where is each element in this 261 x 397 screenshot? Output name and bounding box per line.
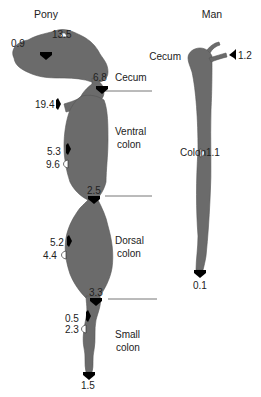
arrow-ventral-out-icon (64, 160, 69, 168)
label-ventral-1: Ventral (115, 126, 146, 137)
label-pony-cecum: Cecum (115, 72, 147, 83)
label-ventral-2: colon (117, 139, 141, 150)
pony-ventral-colon-shape (64, 95, 108, 200)
label-small-2: colon (116, 342, 140, 353)
value-dorsal-out: 4.4 (43, 250, 57, 261)
pony-small-colon-shape (83, 296, 100, 372)
value-cecum-out: 13.5 (52, 29, 72, 40)
label-dorsal-2: colon (117, 248, 141, 259)
value-dorsal-in: 5.2 (50, 237, 64, 248)
label-dorsal-1: Dorsal (115, 235, 144, 246)
label-man-colon: Colon (180, 147, 206, 158)
value-man-colon-out: 1.1 (206, 147, 220, 158)
arrow-fecal-icon (83, 372, 95, 380)
man-colon-shape (188, 48, 212, 270)
value-ventral-in: 5.3 (47, 146, 61, 157)
man-ileum-shape (209, 53, 227, 62)
value-fecal: 1.5 (81, 380, 95, 391)
value-man-fecal: 0.1 (193, 280, 207, 291)
arrow-dorsal-out-icon (62, 251, 67, 259)
value-ventral-exit: 2.5 (87, 185, 101, 196)
man-appendix-shape (207, 42, 220, 53)
value-cecum-exit: 6.8 (93, 72, 107, 83)
value-cecum-in: 0.9 (11, 38, 25, 49)
arrow-small-out-icon (82, 325, 87, 333)
hindgut-comparison-diagram: Pony Man 0.9 13.5 6.8 Cecum 19.4 Ventral… (0, 0, 261, 397)
value-small-out: 2.3 (65, 324, 79, 335)
man-arrow-fecal-icon (194, 270, 206, 278)
value-ventral-out: 9.6 (46, 159, 60, 170)
value-ileum-inflow: 19.4 (35, 99, 55, 110)
label-small-1: Small (115, 329, 140, 340)
value-man-ileum-inflow: 1.2 (238, 50, 252, 61)
arrow-ileum-inflow-icon (56, 98, 61, 110)
man-arrow-ileum-inflow-icon (229, 49, 236, 60)
pony-dorsal-colon-shape (65, 200, 113, 298)
value-dorsal-exit: 3.3 (89, 287, 103, 298)
pony-title: Pony (34, 8, 59, 20)
value-small-in: 0.5 (65, 313, 79, 324)
man-title: Man (202, 8, 223, 20)
label-man-cecum: Cecum (149, 51, 181, 62)
